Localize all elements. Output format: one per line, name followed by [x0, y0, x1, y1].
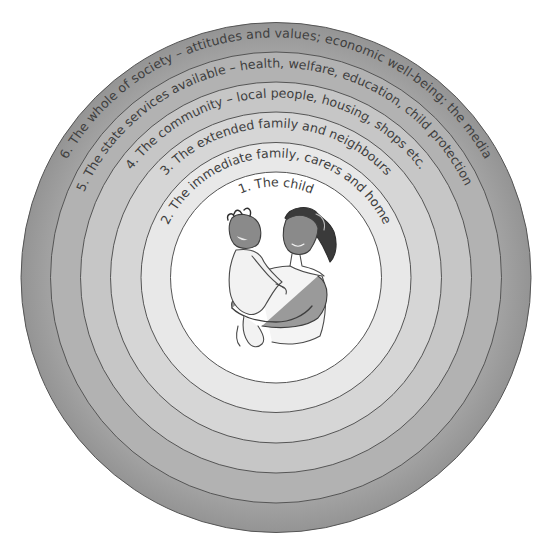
concentric-influence-diagram: 6. The whole of society – attitudes and … [0, 0, 544, 548]
